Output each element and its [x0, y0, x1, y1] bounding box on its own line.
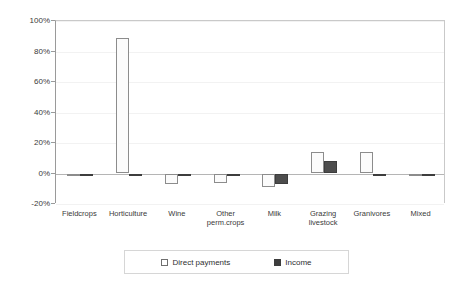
- x-axis-label-line1: Grazing: [310, 209, 336, 218]
- bar-direct-payments: [165, 174, 178, 185]
- x-axis-label-line1: Milk: [268, 209, 281, 218]
- bar-chart: 100%80%60%40%20%0%-20% FieldcropsHorticu…: [0, 0, 470, 292]
- bar-direct-payments: [409, 174, 422, 176]
- legend-swatch-income: [274, 259, 281, 266]
- legend-item-direct-payments: Direct payments: [161, 258, 230, 267]
- plot-area: [55, 20, 445, 203]
- x-axis-label-line1: Mixed: [411, 209, 431, 218]
- bar-income: [422, 174, 435, 176]
- x-axis-label-line2: perm.crops: [201, 218, 250, 227]
- x-axis-label-line1: Wine: [168, 209, 185, 218]
- y-axis-tick-label: 20%: [4, 138, 50, 147]
- bar-income: [227, 174, 240, 176]
- gridline: [56, 204, 444, 205]
- x-axis-label: Milk: [250, 209, 299, 218]
- y-axis-tick-label: 40%: [4, 107, 50, 116]
- x-axis-label: Horticulture: [104, 209, 153, 218]
- bar-income: [373, 174, 386, 176]
- bar-income: [324, 161, 337, 173]
- x-axis-label: Fieldcrops: [55, 209, 104, 218]
- x-axis-label-line1: Other: [216, 209, 235, 218]
- x-axis-label: Otherperm.crops: [201, 209, 250, 227]
- y-axis-tick-label: 100%: [4, 16, 50, 25]
- legend-swatch-direct-payments: [161, 259, 168, 266]
- y-axis-tick-mark: [51, 203, 55, 204]
- bar-income: [275, 174, 288, 185]
- gridline: [56, 21, 444, 22]
- x-axis-label-line1: Granivores: [354, 209, 391, 218]
- bar-direct-payments: [311, 152, 324, 173]
- bar-income: [129, 174, 142, 176]
- legend-label-direct-payments: Direct payments: [172, 258, 230, 267]
- bar-direct-payments: [67, 174, 80, 176]
- x-axis-label: Granivores: [348, 209, 397, 218]
- bar-direct-payments: [360, 152, 373, 173]
- gridline: [56, 113, 444, 114]
- y-axis-tick-label: 0%: [4, 168, 50, 177]
- gridline: [56, 143, 444, 144]
- legend-item-income: Income: [274, 258, 311, 267]
- bar-income: [80, 174, 93, 176]
- bar-direct-payments: [214, 174, 227, 183]
- plot-inner: [56, 21, 444, 203]
- y-axis-tick-label: 80%: [4, 46, 50, 55]
- gridline: [56, 52, 444, 53]
- x-axis-label: Grazinglivestock: [299, 209, 348, 227]
- legend-label-income: Income: [285, 258, 311, 267]
- gridline: [56, 82, 444, 83]
- x-axis-label-line1: Horticulture: [109, 209, 147, 218]
- y-axis-tick-label: -20%: [4, 199, 50, 208]
- x-axis-label: Wine: [153, 209, 202, 218]
- x-axis-label-line1: Fieldcrops: [62, 209, 97, 218]
- bar-direct-payments: [116, 38, 129, 174]
- x-axis-label-line2: livestock: [299, 218, 348, 227]
- chart-legend: Direct payments Income: [124, 250, 349, 274]
- y-axis-tick-label: 60%: [4, 77, 50, 86]
- bar-direct-payments: [262, 174, 275, 188]
- bar-income: [178, 174, 191, 176]
- x-axis-label: Mixed: [396, 209, 445, 218]
